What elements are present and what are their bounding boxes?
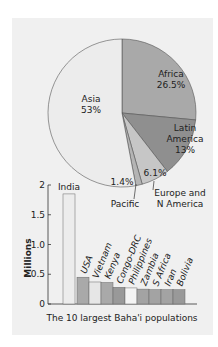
bar-india	[63, 194, 75, 304]
y-axis-label: Millions	[23, 238, 33, 277]
bar-kenya	[101, 283, 113, 304]
bar-usa	[77, 277, 89, 304]
bar-label-india: India	[58, 182, 80, 192]
bar-vietnam	[89, 282, 101, 304]
bar-congo-drc	[113, 287, 125, 304]
bar-zambia	[137, 289, 149, 304]
chart-canvas: Africa26.5%LatinAmerica13%Asia53%6.1%Eur…	[0, 0, 218, 347]
bar-iran	[161, 290, 173, 304]
pie-label-pacific: Pacific	[111, 199, 140, 209]
pie-chart	[48, 39, 196, 187]
bar-philippines	[125, 288, 137, 304]
y-tick-label: 2	[39, 180, 45, 190]
pie-label-africa: Africa26.5%	[157, 69, 186, 90]
pie-label-europe-pct: 6.1%	[144, 168, 167, 178]
bar-bolivia	[173, 290, 185, 304]
y-tick-label: 1.5	[31, 210, 45, 220]
bar-s-africa	[149, 290, 161, 304]
pie-label-asia: Asia53%	[81, 94, 101, 115]
y-tick-label: 0	[39, 299, 45, 309]
pie-label-pacific-pct: 1.4%	[111, 177, 134, 187]
pie-label-europe-n-america: Europe andN America	[154, 188, 205, 209]
x-axis-title: The 10 largest Baha'i populations	[45, 313, 197, 323]
